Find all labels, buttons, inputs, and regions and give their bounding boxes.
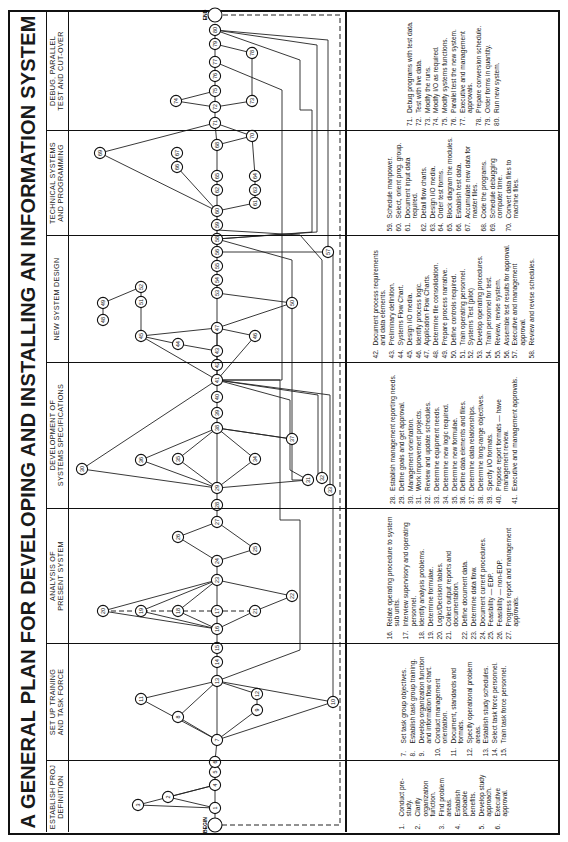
activity-number: 45. <box>405 345 412 358</box>
network-node: 57 <box>322 246 333 257</box>
activity-number: 11. <box>449 743 464 756</box>
network-node: 66 <box>171 161 182 172</box>
activity-text: Management orientation. <box>406 418 413 491</box>
activity-item: 35.Determine new formulae. <box>450 366 457 504</box>
network-edge <box>217 293 292 303</box>
network-edge <box>217 580 292 596</box>
svg-text:15: 15 <box>214 645 220 651</box>
activity-text: Document input data required. <box>404 134 419 218</box>
activity-item: 21.Collect output reports and documentat… <box>445 512 460 639</box>
activity-text: Run new system. <box>492 62 499 113</box>
activity-number: 23. <box>470 626 477 639</box>
activity-number: 46. <box>414 345 421 358</box>
svg-text:20: 20 <box>100 608 106 614</box>
activity-number: 72. <box>415 113 422 126</box>
activity-item: 56.Assemble test results for approval. <box>502 239 509 358</box>
activity-number: 20. <box>436 626 443 639</box>
network-node: 59 <box>211 219 222 230</box>
svg-text:1: 1 <box>212 807 218 810</box>
activity-text: Work improvement projects. <box>415 409 422 491</box>
activity-text: Accumulate new data for master files. <box>464 134 479 218</box>
activity-text: Set task group objectives. <box>399 667 406 743</box>
activity-number: 49. <box>440 345 447 358</box>
network-node: 44 <box>172 338 183 349</box>
activity-number: 21. <box>445 626 460 639</box>
activity-item: 59.Schedule manpower. <box>386 134 393 231</box>
activity-number: 5. <box>477 816 492 829</box>
activity-number: 32. <box>423 491 430 504</box>
network-node: 64 <box>249 170 260 181</box>
activity-text: Define controls required. <box>449 273 456 345</box>
activity-text: Define goals and get approval. <box>397 402 404 491</box>
activity-item: 43.Preliminary definition. <box>388 239 395 358</box>
network-node: 7 <box>211 734 222 745</box>
svg-text:79: 79 <box>212 41 218 47</box>
activity-text: Assemble test results for approval. <box>502 244 509 345</box>
svg-text:21: 21 <box>252 608 258 614</box>
network-node: 6 <box>209 756 220 767</box>
activity-number: 34. <box>441 491 448 504</box>
activity-number: 41. <box>510 491 517 504</box>
activity-number: 66. <box>455 218 462 231</box>
activity-number: 56. <box>502 345 509 358</box>
activity-number: 1. <box>397 816 412 829</box>
activity-text: Determine data relationships. <box>467 405 474 491</box>
network-node: 3 <box>132 799 143 810</box>
activity-text: Conduct pre-study. <box>397 764 412 816</box>
network-node: 77 <box>209 56 220 67</box>
activity-item: 44.Systems Flow Chart. <box>396 239 403 358</box>
activity-number: 73. <box>423 113 430 126</box>
network-node: 14 <box>211 656 222 667</box>
activity-item: 22.Define document data. <box>461 512 468 639</box>
activity-list-p2: 7.Set task group objectives.8.Establish … <box>347 643 560 760</box>
activity-item: 16.Relate operating procedure to system … <box>386 512 401 639</box>
activity-text: Find problem areas. <box>437 764 452 816</box>
activity-number: 44. <box>396 345 403 358</box>
network-node: 62 <box>211 184 222 195</box>
svg-text:3: 3 <box>135 804 141 807</box>
network-edge <box>178 428 217 459</box>
network-node: 67 <box>171 147 182 158</box>
activity-text: Test with live data. <box>415 59 422 113</box>
activity-item: 54.Train personnel for test. <box>484 239 491 358</box>
activity-item: 32.Review and update schedules. <box>423 366 430 504</box>
activity-item: 8.Establish task group training. <box>408 647 415 756</box>
svg-text:13: 13 <box>214 678 220 684</box>
activity-text: Design I/O media. <box>405 292 412 345</box>
activity-item: 1.Conduct pre-study. <box>397 764 412 829</box>
svg-text:27: 27 <box>214 519 220 525</box>
activity-number: 58. <box>527 345 534 358</box>
activity-number: 39. <box>485 491 492 504</box>
svg-text:18: 18 <box>175 608 181 614</box>
svg-text:44: 44 <box>175 341 181 347</box>
activity-item: 31.Work improvement projects. <box>415 366 422 504</box>
network-node: 49 <box>97 297 108 308</box>
network-edge <box>82 469 217 488</box>
svg-text:23: 23 <box>214 577 220 583</box>
activity-item: 65.Block diagram the modules. <box>446 134 453 231</box>
activity-text: Parallel test the new system. <box>450 29 457 113</box>
network-edge <box>178 580 217 611</box>
activity-item: 30.Management orientation. <box>406 366 413 504</box>
svg-text:43: 43 <box>214 348 220 354</box>
activity-item: 29.Define goals and get approval. <box>397 366 404 504</box>
activity-text: Select task force personnel. <box>490 662 497 743</box>
activity-text: Order test forms. <box>437 169 444 218</box>
activity-text: Code the programs. <box>480 160 487 218</box>
svg-text:72: 72 <box>212 104 218 110</box>
network-node: 21 <box>249 605 260 616</box>
activity-text: Propose report formats — have management… <box>494 366 509 491</box>
network-edge <box>100 123 215 153</box>
activity-item: 40.Propose report formats — have managem… <box>494 366 509 504</box>
svg-text:49: 49 <box>100 300 106 306</box>
phase-divider <box>46 130 558 131</box>
activity-number: 10. <box>433 743 448 756</box>
network-node: 46 <box>249 330 260 341</box>
activity-number: 55. <box>493 345 500 358</box>
activity-item: 25.Feasibility — EDP. <box>487 512 494 639</box>
activity-item: 18.Identify analysis problems. <box>418 512 425 639</box>
activity-item: 45.Design I/O media. <box>405 239 412 358</box>
activity-number: 61. <box>404 218 419 231</box>
svg-text:78: 78 <box>249 50 255 56</box>
network-node: 10 <box>327 696 338 707</box>
